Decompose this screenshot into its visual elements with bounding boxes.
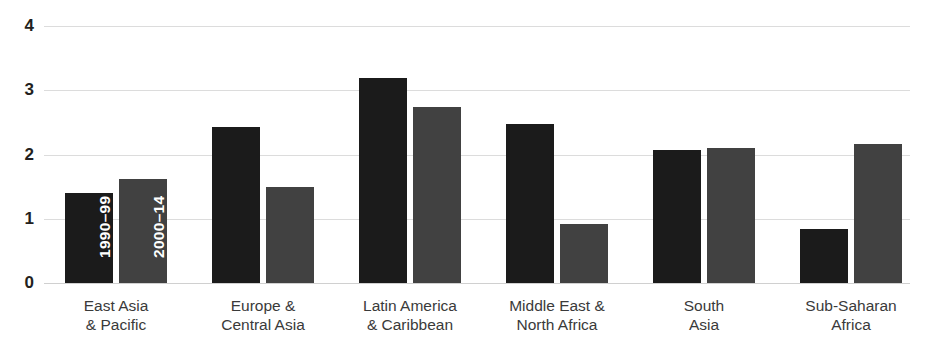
category-label-line2: Central Asia: [183, 315, 343, 334]
plot-area: 01234 1990–992000–14: [0, 0, 927, 290]
category-label-3: Middle East &North Africa: [477, 296, 637, 334]
category-label-2: Latin America& Caribbean: [330, 296, 490, 334]
category-label-4: SouthAsia: [624, 296, 784, 334]
bar-2-0[interactable]: [359, 78, 407, 283]
category-label-line1: South: [684, 297, 725, 314]
bar-2-1[interactable]: [413, 107, 461, 283]
bar-5-1[interactable]: [854, 144, 902, 283]
bar-5-0[interactable]: [800, 229, 848, 283]
category-label-line2: Africa: [771, 315, 927, 334]
category-label-line1: Middle East &: [509, 297, 605, 314]
category-label-0: East Asia& Pacific: [36, 296, 196, 334]
legend-label-1: 2000–14: [151, 195, 167, 257]
category-label-line1: Europe &: [231, 297, 296, 314]
gridline-0: [44, 283, 910, 284]
category-label-5: Sub-SaharanAfrica: [771, 296, 927, 334]
bar-1-1[interactable]: [266, 187, 314, 283]
category-label-line2: & Pacific: [36, 315, 196, 334]
category-label-line2: North Africa: [477, 315, 637, 334]
category-label-line1: East Asia: [84, 297, 149, 314]
bar-4-1[interactable]: [707, 148, 755, 283]
bar-0-0[interactable]: 1990–99: [65, 193, 113, 283]
x-axis-category-labels: East Asia& PacificEurope &Central AsiaLa…: [0, 290, 927, 353]
category-label-1: Europe &Central Asia: [183, 296, 343, 334]
bar-0-1[interactable]: 2000–14: [119, 179, 167, 283]
category-label-line2: Asia: [624, 315, 784, 334]
bar-1-0[interactable]: [212, 127, 260, 283]
category-label-line2: & Caribbean: [330, 315, 490, 334]
category-label-line1: Latin America: [363, 297, 457, 314]
bars-layer: 1990–992000–14: [0, 0, 927, 283]
category-label-line1: Sub-Saharan: [805, 297, 896, 314]
bar-3-1[interactable]: [560, 224, 608, 283]
bar-chart: 01234 1990–992000–14 East Asia& PacificE…: [0, 0, 927, 353]
bar-4-0[interactable]: [653, 150, 701, 283]
legend-label-0: 1990–99: [97, 195, 113, 257]
bar-3-0[interactable]: [506, 124, 554, 283]
